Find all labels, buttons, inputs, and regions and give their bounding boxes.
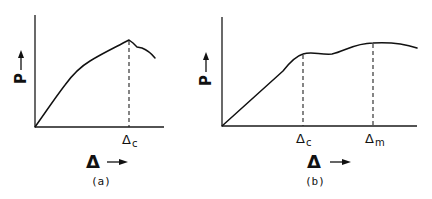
panel-a-caption: (a) (91, 175, 111, 188)
panel-a-delta-label: Δ (86, 151, 100, 172)
panel-a-x-arrow-head-icon (119, 159, 128, 165)
panel-a-delta-c-label: Δc (122, 132, 137, 149)
panel-b-x-label: Δ (307, 151, 351, 172)
panel-b-caption: (b) (305, 175, 325, 188)
load-displacement-figure: Δc P Δ (a) Δc Δm (0, 0, 432, 199)
panel-b-delta-c-label: Δc (296, 131, 311, 148)
panel-a-y-arrow-head-icon (18, 50, 24, 58)
panel-b-delta-m-label: Δm (365, 131, 385, 148)
panel-b-load-curve (222, 43, 417, 126)
panel-b: Δc Δm P Δ (b) (197, 17, 417, 188)
panel-b-y-label: P (197, 52, 215, 86)
panel-a-x-label: Δ (86, 151, 128, 172)
panel-b-delta-label: Δ (307, 151, 321, 172)
panel-b-p-label: P (197, 75, 215, 86)
panel-a-p-label: P (12, 73, 30, 84)
panel-a-load-curve (35, 40, 155, 127)
panel-b-y-arrow-head-icon (203, 52, 209, 60)
panel-a: Δc P Δ (a) (12, 15, 164, 188)
panel-b-x-arrow-head-icon (342, 159, 351, 165)
panel-a-y-label: P (12, 50, 30, 84)
